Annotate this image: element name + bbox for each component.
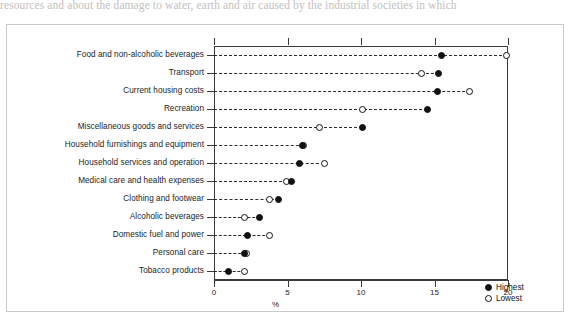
x-axis-tick [214,280,215,287]
x-axis-tick-label: 5 [285,288,289,297]
page-root: resources and about the damage to water,… [0,0,571,322]
legend-item-lowest: Lowest [485,293,557,304]
x-axis-tick-top [214,38,215,45]
x-axis-tick [361,280,362,287]
x-axis-tick-label: 0 [212,288,216,297]
x-axis-tick-label: 15 [430,288,439,297]
x-axis-title-text: % [272,300,279,309]
page-body-text: resources and about the damage to water,… [0,0,571,13]
x-axis-tick-top [288,38,289,45]
open-circle-icon [485,295,492,302]
x-axis-tick-top [361,38,362,45]
legend-label-highest: Highest [496,282,524,293]
plot-area-frame [214,46,508,280]
legend-item-highest: Highest [485,282,557,293]
chart-legend: Highest Lowest [485,282,557,304]
x-axis-tick-top [508,38,509,45]
legend-label-lowest: Lowest [496,293,522,304]
x-axis-tick-label: 10 [357,288,366,297]
x-axis-tick [288,280,289,287]
x-axis-tick-top [435,38,436,45]
x-axis-tick [435,280,436,287]
filled-circle-icon [485,284,492,291]
